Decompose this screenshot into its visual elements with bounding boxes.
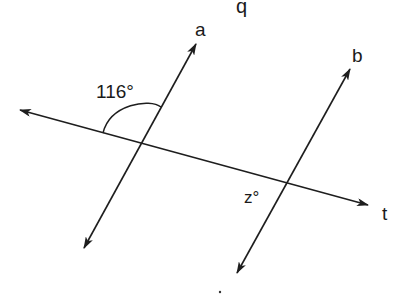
diagram-canvas: q a b t 116° z° — [0, 0, 396, 294]
label-line-b: b — [352, 46, 363, 65]
parallel-line-b — [237, 69, 350, 273]
angle-arc-116 — [103, 103, 161, 133]
label-transversal-t: t — [382, 204, 387, 223]
angle-label-116: 116° — [96, 82, 134, 101]
parallel-line-a — [84, 44, 196, 248]
label-line-a: a — [195, 20, 206, 39]
stray-dot — [219, 291, 221, 293]
geometry-figure — [0, 0, 396, 294]
angle-label-z: z° — [244, 189, 259, 206]
transversal-line-t — [20, 110, 368, 205]
label-q: q — [236, 0, 247, 16]
